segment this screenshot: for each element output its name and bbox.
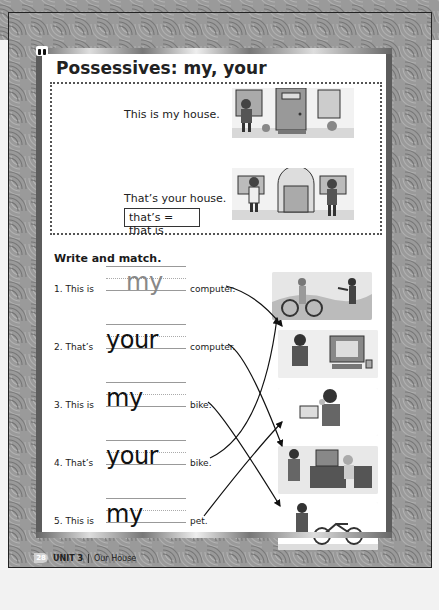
example-sentence-my: This is my house.	[124, 108, 220, 121]
margin-below	[0, 570, 439, 610]
answer-text: my	[106, 503, 143, 525]
page-number: 28	[34, 553, 48, 563]
item-noun: pet.	[190, 516, 208, 526]
item-noun: computer.	[190, 342, 235, 352]
contraction-note: that’s = that is	[124, 208, 200, 227]
exercise-item-2: 2. That’s your computer.	[54, 324, 254, 358]
picture-bike-outdoors[interactable]	[272, 272, 372, 320]
picture-your-computer[interactable]	[278, 446, 378, 494]
exercise-item-5: 5. This is my pet.	[54, 498, 254, 532]
answer-text: your	[106, 445, 158, 467]
audio-icon[interactable]	[36, 46, 48, 56]
house-scene-your	[232, 168, 354, 220]
answer-text: your	[106, 329, 158, 351]
grammar-presentation-box: This is my house.	[50, 82, 382, 235]
answer-text: my	[106, 387, 143, 409]
unit-title: Our House	[94, 554, 136, 563]
item-noun: computer.	[190, 284, 235, 294]
footer-divider	[88, 554, 89, 563]
answer-field[interactable]: my	[106, 382, 186, 410]
unit-label: UNIT 3	[53, 554, 83, 563]
picture-my-computer[interactable]	[278, 330, 378, 378]
item-prefix: 1. This is	[54, 284, 94, 294]
exercise-item-3: 3. This is my bike.	[54, 382, 254, 416]
answer-field[interactable]: your	[106, 324, 186, 352]
answer-field[interactable]: my	[106, 266, 186, 294]
item-prefix: 3. This is	[54, 400, 94, 410]
item-prefix: 2. That’s	[54, 342, 93, 352]
exercise-item-4: 4. That’s your bike.	[54, 440, 254, 474]
lesson-panel: Possessives: my, your This is my house.	[36, 48, 392, 538]
item-noun: bike.	[190, 458, 212, 468]
house-scene-my	[232, 88, 354, 138]
answer-field[interactable]: your	[106, 440, 186, 468]
page-footer: 28 UNIT 3 Our House	[34, 553, 136, 563]
item-noun: bike.	[190, 400, 212, 410]
item-prefix: 4. That’s	[54, 458, 93, 468]
exercise-title: Write and match.	[54, 252, 161, 265]
lesson-page: Possessives: my, your This is my house.	[42, 54, 386, 532]
picture-pet-bird[interactable]	[278, 388, 378, 436]
frame-shine-bottom	[36, 532, 392, 538]
picture-my-bike[interactable]	[278, 502, 378, 550]
exercise-item-1: 1. This is my computer.	[54, 266, 254, 300]
example-sentence-your: That’s your house.	[124, 192, 226, 205]
answer-field[interactable]: my	[106, 498, 186, 526]
answer-text: my	[126, 271, 163, 293]
lesson-title: Possessives: my, your	[56, 58, 267, 78]
item-prefix: 5. This is	[54, 516, 94, 526]
